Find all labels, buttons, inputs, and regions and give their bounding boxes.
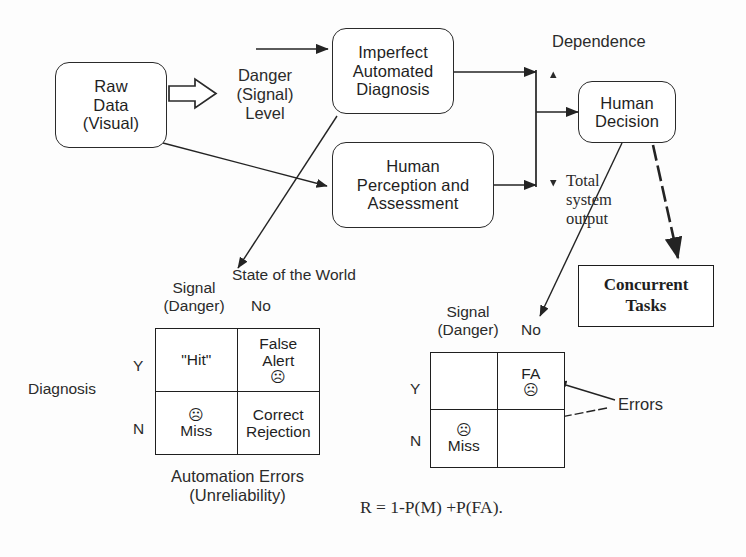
cell-miss-right-line-1: Miss bbox=[448, 437, 480, 454]
cell-hit-line-1: "Hit" bbox=[181, 351, 211, 368]
cell-false-alert-line-2: Alert bbox=[262, 352, 294, 369]
danger-line-1: Danger bbox=[214, 66, 316, 85]
automation-errors-line-1: Automation Errors bbox=[130, 467, 345, 486]
left-signal-detection-matrix: "Hit" False Alert ☹ ☹ Miss Correct Rejec… bbox=[155, 328, 320, 455]
left-matrix-row-header-n: N bbox=[133, 420, 144, 438]
arrow-diagnosis-to-left-matrix bbox=[238, 116, 337, 268]
total-output-line-2: system bbox=[566, 191, 658, 210]
left-matrix-col-header-no: No bbox=[236, 297, 286, 315]
sad-face-icon: ☹ bbox=[270, 369, 286, 384]
reliability-formula: R = 1-P(M) +P(FA). bbox=[360, 497, 503, 518]
raw-data-line-3: (Visual) bbox=[83, 114, 139, 132]
right-matrix-col-header-signal: Signal (Danger) bbox=[428, 303, 508, 338]
raw-data-line-2: Data bbox=[83, 96, 139, 114]
right-row1-text: Y bbox=[410, 380, 420, 397]
node-imperfect-automated-diagnosis: Imperfect Automated Diagnosis bbox=[332, 28, 454, 114]
imperfect-line-1: Imperfect bbox=[353, 43, 434, 61]
left-col2-text: No bbox=[236, 297, 286, 315]
label-total-system-output: Total system output bbox=[566, 172, 658, 228]
cell-cr-line-1: Correct bbox=[253, 406, 304, 423]
left-matrix-axis-label-diagnosis: Diagnosis bbox=[28, 380, 96, 398]
imperfect-line-2: Automated bbox=[353, 62, 434, 80]
matrix-cell-fa: FA ☹ bbox=[498, 353, 565, 410]
concurrent-line-1: Concurrent bbox=[604, 275, 689, 296]
node-raw-data: Raw Data (Visual) bbox=[55, 62, 167, 148]
right-matrix-row-header-n: N bbox=[410, 432, 421, 450]
perception-line-1: Human bbox=[357, 157, 469, 175]
sad-face-icon: ☹ bbox=[456, 422, 472, 437]
automation-errors-line-2: (Unreliability) bbox=[130, 486, 345, 505]
perception-line-2: Perception and bbox=[357, 176, 469, 194]
left-row2-text: N bbox=[133, 420, 144, 437]
imperfect-line-3: Diagnosis bbox=[353, 80, 434, 98]
cell-miss-line-1: Miss bbox=[180, 422, 212, 439]
cell-cr-line-2: Rejection bbox=[246, 423, 311, 440]
node-concurrent-tasks: Concurrent Tasks bbox=[578, 265, 714, 327]
matrix-cell-hit: "Hit" bbox=[156, 329, 238, 392]
left-matrix-row-header-y: Y bbox=[133, 357, 143, 375]
total-output-line-3: output bbox=[566, 210, 658, 229]
total-output-line-1: Total bbox=[566, 172, 658, 191]
right-col2-text: No bbox=[510, 321, 552, 339]
dependence-text: Dependence bbox=[552, 32, 692, 51]
dependence-down-indicator bbox=[550, 180, 557, 187]
diagram-canvas: Raw Data (Visual) Danger (Signal) Level … bbox=[0, 0, 746, 557]
block-arrow-raw-to-danger bbox=[169, 79, 216, 108]
dependence-up-indicator bbox=[550, 72, 557, 79]
node-human-perception-assessment: Human Perception and Assessment bbox=[332, 142, 494, 228]
danger-line-2: (Signal) bbox=[214, 85, 316, 104]
right-col1-line-2: (Danger) bbox=[428, 321, 508, 339]
sad-face-icon: ☹ bbox=[523, 382, 539, 397]
matrix-cell-empty-hit bbox=[431, 353, 498, 410]
matrix-cell-miss: ☹ Miss bbox=[156, 392, 238, 455]
right-col1-line-1: Signal bbox=[428, 303, 508, 321]
node-human-decision: Human Decision bbox=[578, 81, 676, 143]
decision-line-1: Human bbox=[595, 94, 659, 112]
label-errors: Errors bbox=[618, 395, 663, 414]
cell-false-alert-line-1: False bbox=[259, 335, 297, 352]
right-matrix-row-header-y: Y bbox=[410, 380, 420, 398]
label-state-of-the-world: State of the World bbox=[232, 266, 412, 284]
state-of-the-world-text: State of the World bbox=[232, 266, 356, 283]
formula-text: R = 1-P(M) +P(FA). bbox=[360, 497, 503, 517]
label-dependence: Dependence bbox=[552, 32, 692, 51]
left-col1-line-2: (Danger) bbox=[155, 297, 233, 315]
left-row1-text: Y bbox=[133, 357, 143, 374]
arrow-rawdata-to-perception bbox=[163, 143, 327, 186]
matrix-cell-false-alert: False Alert ☹ bbox=[238, 329, 320, 392]
right-row2-text: N bbox=[410, 432, 421, 449]
label-danger-signal-level: Danger (Signal) Level bbox=[214, 66, 316, 122]
raw-data-line-1: Raw bbox=[83, 77, 139, 95]
caption-automation-errors: Automation Errors (Unreliability) bbox=[130, 467, 345, 505]
sad-face-icon: ☹ bbox=[188, 407, 204, 422]
concurrent-line-2: Tasks bbox=[604, 296, 689, 317]
danger-line-3: Level bbox=[214, 104, 316, 123]
matrix-cell-correct-rejection: Correct Rejection bbox=[238, 392, 320, 455]
right-signal-detection-matrix: FA ☹ ☹ Miss bbox=[430, 352, 565, 468]
decision-line-2: Decision bbox=[595, 112, 659, 130]
matrix-cell-empty-cr bbox=[498, 410, 565, 467]
perception-line-3: Assessment bbox=[357, 194, 469, 212]
right-matrix-col-header-no: No bbox=[510, 321, 552, 339]
errors-text: Errors bbox=[618, 395, 663, 413]
diagnosis-text: Diagnosis bbox=[28, 380, 96, 397]
left-col1-line-1: Signal bbox=[155, 279, 233, 297]
matrix-cell-miss-right: ☹ Miss bbox=[431, 410, 498, 467]
left-matrix-col-header-signal: Signal (Danger) bbox=[155, 279, 233, 314]
cell-fa-line-1: FA bbox=[521, 365, 540, 382]
